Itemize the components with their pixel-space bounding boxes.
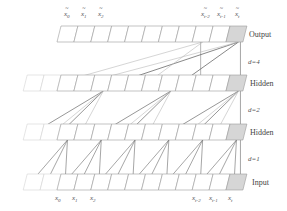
output-token-t-2: ~xt-2 — [201, 6, 210, 19]
connection-edge — [99, 140, 101, 176]
output-token-t-1: ~xt-1 — [217, 6, 226, 19]
connection-edge — [201, 91, 239, 128]
connection-edge — [201, 140, 203, 176]
current-cell — [226, 75, 247, 91]
output-token-t: ~xt — [235, 6, 240, 19]
layer-label-input: Input — [252, 178, 269, 187]
input-token-2: x2 — [90, 194, 96, 203]
connection-edge — [65, 91, 103, 128]
input-token-0: x0 — [55, 194, 61, 203]
output-token-1: ~x1 — [81, 6, 87, 19]
connection-edge — [167, 140, 169, 176]
input-token-t-2: xt-2 — [192, 194, 201, 203]
connection-edge — [133, 91, 171, 128]
output-token-0: ~x0 — [64, 6, 70, 19]
dilation-label-1: d=1 — [248, 155, 260, 163]
connection-edge — [65, 140, 67, 176]
dilation-label-2: d=2 — [248, 106, 260, 114]
input-token-t: xt — [228, 194, 233, 203]
output-token-2: ~x2 — [98, 6, 104, 19]
current-cell — [226, 174, 247, 190]
layer-label-hidden-2: Hidden — [250, 79, 274, 88]
connection-edge — [234, 140, 236, 176]
input-token-t-1: xt-1 — [209, 194, 218, 203]
dilation-label-4: d=4 — [248, 58, 260, 66]
layer-label-output: Output — [249, 30, 271, 39]
input-token-1: x1 — [72, 194, 78, 203]
layer-label-hidden-1: Hidden — [250, 128, 274, 137]
dilated-convolution-diagram — [0, 0, 287, 211]
connection-edge — [133, 140, 135, 176]
current-cell — [226, 26, 247, 42]
current-cell — [226, 124, 247, 140]
connection-edges — [28, 42, 241, 186]
